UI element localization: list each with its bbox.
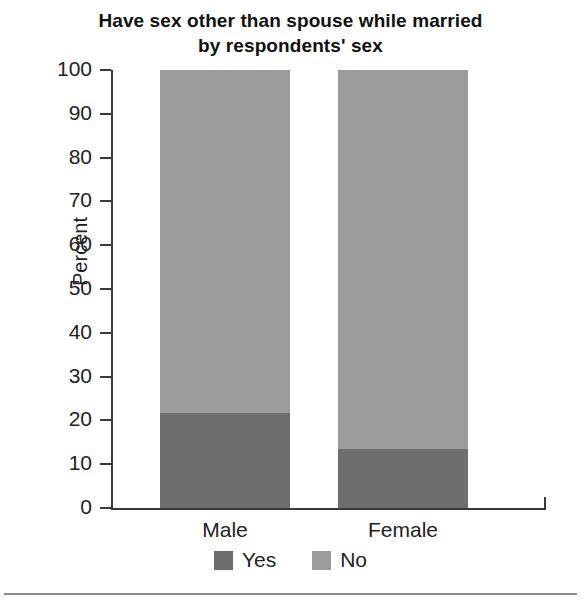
bar-segment-yes[interactable] (160, 413, 290, 508)
y-axis-tick: 80 (100, 157, 111, 159)
legend-swatch-icon (214, 551, 233, 570)
y-axis-tick: 100 (100, 69, 111, 71)
y-axis-tick-label: 30 (69, 364, 92, 388)
chart-figure: Have sex other than spouse while married… (0, 0, 581, 607)
bar-group[interactable]: Male (160, 70, 290, 508)
y-axis-tick-label: 80 (69, 145, 92, 169)
x-axis-tick-label: Female (338, 518, 468, 542)
y-axis-tick-label: 50 (69, 276, 92, 300)
chart-title: Have sex other than spouse while married… (0, 8, 581, 58)
y-axis-tick-label: 60 (69, 232, 92, 256)
y-axis-tick: 50 (100, 288, 111, 290)
chart-title-line-1: Have sex other than spouse while married (0, 8, 581, 33)
footer-divider (4, 593, 577, 595)
legend-swatch-icon (312, 551, 331, 570)
chart-title-line-2: by respondents' sex (0, 33, 581, 58)
legend-label: Yes (242, 548, 276, 572)
y-axis-tick: 0 (100, 507, 111, 509)
y-axis-tick-label: 90 (69, 101, 92, 125)
y-axis-tick: 40 (100, 332, 111, 334)
x-axis-end-tick (544, 497, 546, 508)
plot-area: 0102030405060708090100 MaleFemale (111, 70, 546, 508)
bar-segment-no[interactable] (160, 70, 290, 413)
legend-item[interactable]: Yes (214, 548, 276, 572)
y-axis-tick: 30 (100, 376, 111, 378)
bar-group[interactable]: Female (338, 70, 468, 508)
y-axis-tick-label: 20 (69, 407, 92, 431)
y-axis-tick: 10 (100, 463, 111, 465)
chart-legend: YesNo (0, 548, 581, 572)
y-axis-tick-label: 100 (57, 57, 92, 81)
y-axis-tick: 70 (100, 200, 111, 202)
y-axis-line (111, 70, 113, 508)
legend-label: No (340, 548, 367, 572)
x-axis-line (111, 508, 546, 510)
y-axis-tick: 20 (100, 419, 111, 421)
x-axis-tick-label: Male (160, 518, 290, 542)
y-axis-tick: 60 (100, 244, 111, 246)
bar-segment-yes[interactable] (338, 449, 468, 508)
y-axis-tick: 90 (100, 113, 111, 115)
legend-item[interactable]: No (312, 548, 367, 572)
y-axis-tick-label: 40 (69, 320, 92, 344)
bar-segment-no[interactable] (338, 70, 468, 449)
y-axis-tick-label: 70 (69, 188, 92, 212)
y-axis-tick-label: 10 (69, 451, 92, 475)
y-axis-tick-label: 0 (80, 495, 92, 519)
